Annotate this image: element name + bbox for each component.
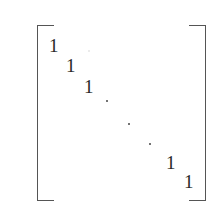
faint-artifact-dot: [88, 50, 90, 52]
matrix-entry-n-1: 1: [166, 153, 176, 172]
diagonal-ellipsis-dot: [106, 100, 108, 102]
matrix-entry-3-3: 1: [84, 77, 94, 96]
diagonal-ellipsis-dot: [128, 123, 130, 125]
identity-matrix: 1 1 1 1 1: [0, 0, 221, 208]
matrix-entry-2-2: 1: [66, 56, 76, 75]
diagonal-ellipsis-dot: [149, 143, 151, 145]
matrix-entry-1-1: 1: [49, 36, 59, 55]
matrix-entry-n-n: 1: [184, 172, 194, 191]
